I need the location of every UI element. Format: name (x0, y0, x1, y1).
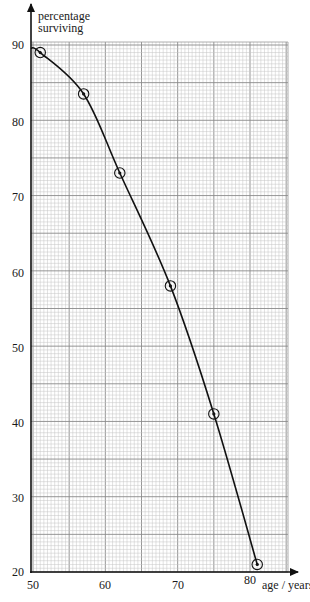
y-tick-40: 40 (4, 416, 24, 431)
survival-curve (31, 48, 257, 565)
y-axis-label-line2: surviving (38, 22, 83, 35)
y-tick-90: 90 (4, 38, 24, 53)
x-tick-70: 70 (172, 578, 184, 593)
axes (30, 4, 298, 573)
y-tick-60: 60 (4, 266, 24, 281)
y-tick-50: 50 (4, 341, 24, 356)
y-tick-20: 20 (4, 565, 24, 580)
x-tick-50: 50 (27, 578, 39, 593)
x-tick-80: 80 (244, 573, 256, 588)
y-tick-70: 70 (4, 190, 24, 205)
graph-paper-grid (31, 42, 288, 572)
survival-chart (0, 0, 310, 602)
y-tick-30: 30 (4, 491, 24, 506)
x-tick-60: 60 (99, 578, 111, 593)
y-tick-80: 80 (4, 115, 24, 130)
x-axis-label: age / years (262, 579, 310, 592)
